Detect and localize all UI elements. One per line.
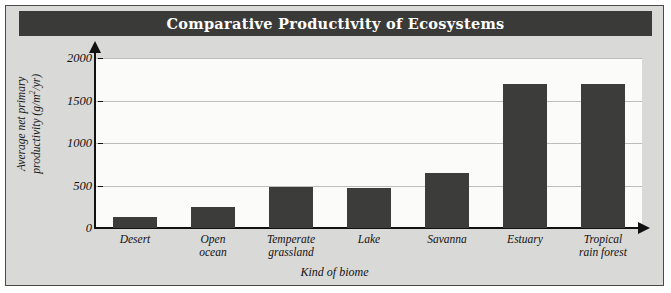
page-title: Comparative Productivity of Ecosystems (166, 15, 504, 32)
x-tick-label-line: ocean (199, 246, 226, 258)
x-tick-label-line: Open (201, 233, 226, 245)
bar (347, 188, 391, 228)
bar (503, 84, 547, 229)
x-tick-label-line: Savanna (427, 233, 467, 245)
x-tick-label-line: grassland (268, 246, 313, 258)
bar (425, 173, 469, 228)
bar (191, 207, 235, 228)
x-tick-label: Tropicalrain forest (557, 233, 649, 259)
x-tick-label-line: Lake (358, 233, 380, 245)
chart-title-bar: Comparative Productivity of Ecosystems (19, 11, 652, 36)
x-axis-label: Kind of biome (6, 265, 663, 280)
x-tick-label-line: Estuary (507, 233, 543, 245)
x-tick-label-line: Desert (120, 233, 151, 245)
bar-series (6, 37, 663, 228)
bar (113, 217, 157, 228)
x-tick-label-line: rain forest (579, 246, 627, 258)
chart-figure: Comparative Productivity of Ecosystems A… (5, 5, 664, 286)
x-tick-label-line: Temperate (267, 233, 315, 245)
x-tick-label-line: Tropical (584, 233, 623, 245)
chart-body: Average net primary productivity (g/m2/y… (6, 37, 663, 285)
bar (269, 187, 313, 228)
bar (581, 84, 625, 229)
x-axis-ticks: DesertOpenoceanTemperategrasslandLakeSav… (6, 233, 663, 267)
